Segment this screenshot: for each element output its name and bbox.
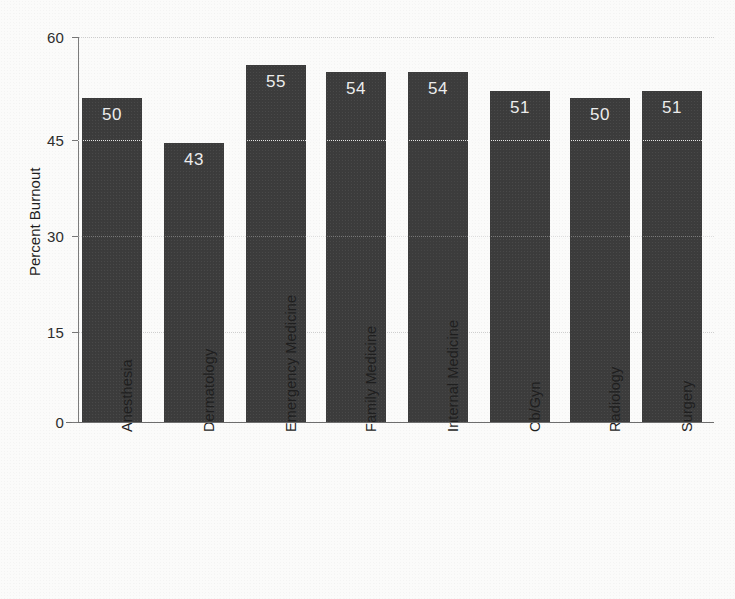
x-tick-label-dermatology: Dermatology	[201, 349, 217, 432]
y-tick-label-45: 45	[24, 132, 64, 149]
bar-chart-figure: 60 45 30 15 0 Percent Burnout 50 43 55 5…	[0, 0, 735, 599]
x-axis-line	[66, 422, 714, 423]
x-tick-label-surgery: Surgery	[679, 381, 695, 432]
y-axis-line	[78, 37, 79, 423]
y-tick-mark-15	[72, 332, 78, 333]
bar-value-radiology: 50	[570, 105, 630, 125]
y-tick-label-60: 60	[24, 29, 64, 46]
y-axis-title: Percent Burnout	[26, 168, 43, 276]
bar-value-emergency-medicine: 55	[246, 72, 306, 92]
y-tick-mark-0	[72, 422, 78, 423]
gridline-30-over-bars	[78, 236, 714, 238]
bar-value-dermatology: 43	[164, 150, 224, 170]
x-tick-label-emergency-medicine: Emergency Medicine	[283, 295, 299, 432]
y-tick-mark-60	[72, 37, 78, 38]
bar-value-family-medicine: 54	[326, 79, 386, 99]
x-tick-label-family-medicine: Family Medicine	[363, 326, 379, 432]
y-tick-label-30: 30	[24, 228, 64, 245]
y-tick-label-0: 0	[24, 414, 64, 431]
bar-value-internal-medicine: 54	[408, 79, 468, 99]
gridline-45-over-bars	[78, 140, 714, 142]
x-tick-label-obgyn: Ob/Gyn	[527, 381, 543, 432]
y-tick-label-15: 15	[24, 324, 64, 341]
gridline-60	[78, 37, 714, 39]
bar-value-obgyn: 51	[490, 98, 550, 118]
bar-value-surgery: 51	[642, 98, 702, 118]
plot-area: 60 45 30 15 0 Percent Burnout 50 43 55 5…	[0, 0, 735, 599]
bar-value-anesthesia: 50	[82, 105, 142, 125]
x-tick-label-internal-medicine: Internal Medicine	[445, 320, 461, 432]
